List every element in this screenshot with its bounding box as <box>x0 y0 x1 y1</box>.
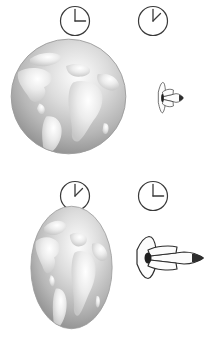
space-shuttle-uncontracted <box>128 230 208 286</box>
space-shuttle-contracted <box>141 70 199 126</box>
frame-earth-rest <box>0 0 212 175</box>
earth-globe-uncontracted <box>10 38 127 155</box>
earth-globe-contracted <box>30 205 113 330</box>
frame-shuttle-rest <box>0 175 212 350</box>
relativity-illustration <box>0 0 212 350</box>
earth-clock-top <box>58 4 92 38</box>
shuttle-engine-bell <box>145 253 152 264</box>
shuttle-nose <box>192 254 204 262</box>
shuttle-clock-top <box>136 4 170 38</box>
shuttle-clock-bottom <box>136 179 170 213</box>
shuttle-nose <box>179 95 184 101</box>
shuttle-engine-bell <box>161 94 164 102</box>
